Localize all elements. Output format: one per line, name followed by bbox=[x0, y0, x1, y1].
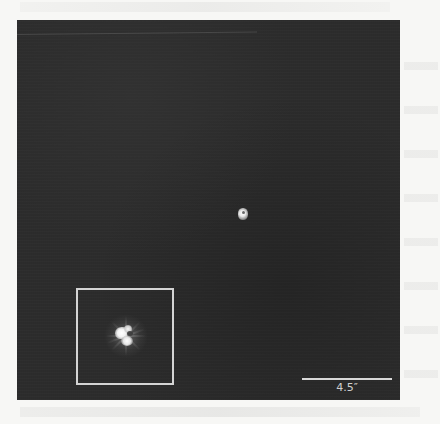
compact-source bbox=[236, 206, 250, 222]
scan-artifact-line bbox=[17, 31, 257, 35]
bleed-through-text-right bbox=[404, 40, 438, 380]
source-lobe bbox=[121, 336, 133, 346]
astronomical-image-panel: 4.5″ bbox=[17, 20, 400, 400]
source-dark-spot bbox=[242, 211, 245, 214]
zoom-inset bbox=[76, 288, 174, 385]
scale-bar bbox=[302, 378, 392, 380]
source-core bbox=[238, 208, 248, 220]
source-dark-gap bbox=[127, 331, 133, 336]
scale-bar-label: 4.5″ bbox=[302, 382, 392, 394]
bleed-through-text-bottom bbox=[20, 407, 420, 417]
bleed-through-text-top bbox=[20, 2, 390, 12]
page: 4.5″ bbox=[0, 0, 440, 424]
inset-source bbox=[104, 314, 148, 358]
